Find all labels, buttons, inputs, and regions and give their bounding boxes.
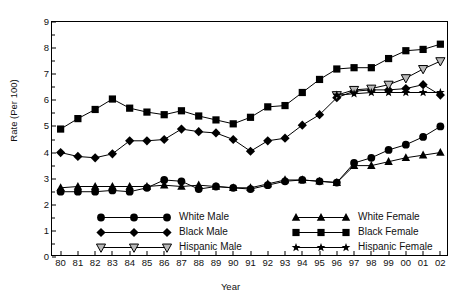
- legend-marker-sample: [290, 225, 352, 240]
- marker-square-filled: [385, 55, 392, 62]
- x-tick-label: 93: [280, 258, 291, 268]
- x-tick-label: 97: [349, 258, 360, 268]
- marker-square-filled: [281, 102, 288, 109]
- marker-circle-filled: [97, 214, 105, 222]
- legend-marker-sample: [95, 225, 173, 240]
- y-tick-label: 3: [44, 174, 49, 184]
- marker-square-filled: [178, 107, 185, 114]
- marker-diamond-filled: [162, 228, 171, 237]
- marker-diamond-filled: [73, 152, 82, 161]
- x-tick-label: 91: [245, 258, 256, 268]
- marker-circle-filled: [385, 146, 393, 154]
- marker-diamond-filled: [280, 134, 289, 143]
- marker-diamond-filled: [56, 148, 65, 157]
- marker-triangle-down-open: [436, 58, 445, 66]
- marker-diamond-filled: [419, 80, 428, 89]
- legend-item-label: Black Male: [179, 226, 228, 237]
- series-line: [61, 126, 441, 191]
- marker-square-filled: [316, 76, 323, 83]
- marker-square-filled: [350, 64, 357, 71]
- x-tick-label: 82: [90, 258, 101, 268]
- marker-diamond-filled: [298, 121, 307, 130]
- marker-triangle-down-open: [419, 66, 428, 74]
- chart-legend: White MaleBlack MaleHispanic Male White …: [95, 210, 425, 258]
- marker-diamond-filled: [160, 135, 169, 144]
- x-tick-label: 01: [418, 258, 429, 268]
- y-tick-label: 5: [44, 122, 49, 132]
- legend-marker-sample: [95, 210, 173, 225]
- legend-item[interactable]: Hispanic Female: [290, 240, 450, 255]
- marker-triangle-up-filled: [194, 181, 202, 189]
- y-axis-label: Rate (Per 100): [8, 71, 19, 151]
- marker-square-filled: [92, 106, 99, 113]
- marker-square-filled: [264, 103, 271, 110]
- y-tick-label: 1: [44, 226, 49, 236]
- x-tick-label: 85: [142, 258, 153, 268]
- marker-square-filled: [109, 95, 116, 102]
- legend-item[interactable]: Hispanic Male: [95, 240, 280, 255]
- marker-triangle-down-open: [162, 244, 171, 252]
- x-tick-label: 99: [383, 258, 394, 268]
- marker-square-filled: [420, 46, 427, 53]
- x-tick-label: 83: [107, 258, 118, 268]
- x-tick-label: 84: [124, 258, 135, 268]
- marker-circle-filled: [402, 141, 410, 149]
- y-tick-label: 9: [44, 17, 49, 27]
- marker-triangle-up-filled: [108, 182, 116, 190]
- marker-square-filled: [437, 41, 444, 48]
- marker-circle-filled: [367, 154, 375, 162]
- marker-square-filled: [126, 105, 133, 112]
- x-tick-label: 90: [228, 258, 239, 268]
- x-tick-label: 00: [401, 258, 412, 268]
- legend-item-label: White Male: [179, 211, 229, 222]
- x-tick-label: 94: [297, 258, 308, 268]
- marker-diamond-filled: [211, 128, 220, 137]
- x-tick-label: 98: [366, 258, 377, 268]
- marker-star-filled: [292, 243, 301, 251]
- legend-marker-sample: [290, 240, 352, 255]
- x-tick-label: 81: [73, 258, 84, 268]
- legend-marker-sample: [95, 240, 173, 255]
- y-tick-label: 8: [44, 43, 49, 53]
- marker-square-filled: [402, 47, 409, 54]
- marker-triangle-up-filled: [342, 213, 350, 221]
- legend-item[interactable]: Black Female: [290, 225, 450, 240]
- x-tick-label: 95: [314, 258, 325, 268]
- x-tick-label: 92: [262, 258, 273, 268]
- marker-diamond-filled: [96, 228, 105, 237]
- marker-square-filled: [230, 120, 237, 127]
- marker-square-filled: [368, 64, 375, 71]
- marker-triangle-down-open: [401, 75, 410, 83]
- marker-triangle-up-filled: [74, 182, 82, 190]
- legend-item[interactable]: White Female: [290, 210, 450, 225]
- x-tick-label: 80: [55, 258, 66, 268]
- legend-marker-sample: [290, 210, 352, 225]
- marker-square-filled: [74, 115, 81, 122]
- marker-star-filled: [342, 243, 351, 251]
- x-tick-label: 96: [332, 258, 343, 268]
- legend-item[interactable]: Black Male: [95, 225, 280, 240]
- marker-square-filled: [333, 65, 340, 72]
- y-tick-label: 4: [44, 148, 49, 158]
- y-tick-label: 2: [44, 200, 49, 210]
- legend-item-label: Black Female: [358, 226, 419, 237]
- marker-circle-filled: [130, 214, 138, 222]
- marker-square-filled: [195, 112, 202, 119]
- series-black-female: [57, 41, 444, 133]
- marker-circle-filled: [436, 123, 444, 131]
- marker-square-filled: [292, 229, 299, 236]
- legend-item-label: Hispanic Female: [358, 241, 432, 252]
- legend-item-label: White Female: [358, 211, 420, 222]
- marker-diamond-filled: [142, 136, 151, 145]
- y-tick-label: 0: [44, 252, 49, 262]
- marker-triangle-up-filled: [317, 213, 325, 221]
- marker-triangle-up-filled: [292, 213, 300, 221]
- marker-diamond-filled: [229, 135, 238, 144]
- x-tick-label: 88: [193, 258, 204, 268]
- marker-triangle-down-open: [96, 244, 105, 252]
- x-tick-label: 87: [176, 258, 187, 268]
- x-tick-label: 86: [159, 258, 170, 268]
- marker-star-filled: [419, 88, 428, 96]
- marker-square-filled: [161, 111, 168, 118]
- legend-item[interactable]: White Male: [95, 210, 280, 225]
